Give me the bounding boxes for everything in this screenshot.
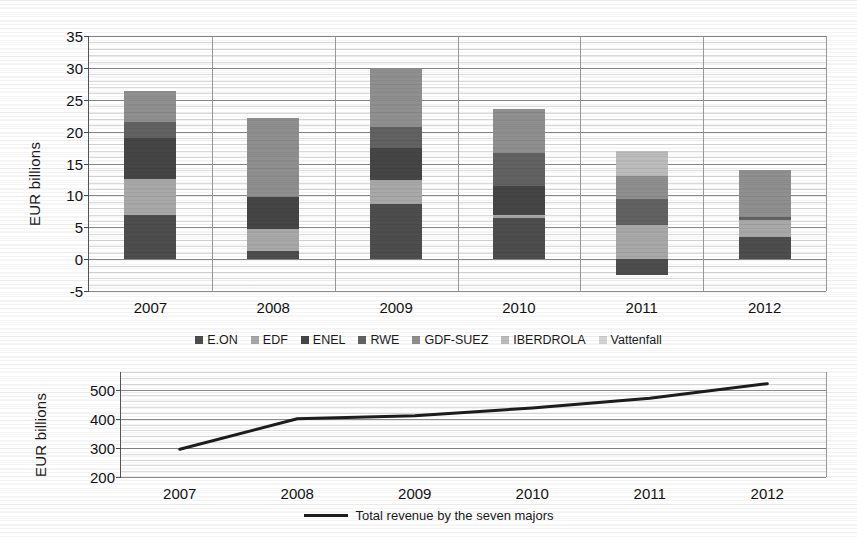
- legend-item: IBERDROLA: [501, 333, 585, 347]
- bar-segment: [247, 251, 299, 259]
- top-chart-legend: E.ONEDFENELRWEGDF-SUEZIBERDROLAVattenfal…: [0, 333, 857, 347]
- y-axis-tick-mark: [84, 227, 89, 228]
- bar-stack: [493, 36, 545, 291]
- line-series-key-icon: [304, 514, 348, 517]
- x-axis-tick-label: 2009: [379, 299, 412, 316]
- y-axis-tick-label: 5: [75, 219, 83, 236]
- y-axis-tick-label: 500: [90, 381, 115, 398]
- bottom-chart-legend-label: Total revenue by the seven majors: [356, 508, 554, 523]
- legend-item: ENEL: [301, 333, 346, 347]
- bar-segment: [124, 138, 176, 179]
- bar-stack: [739, 36, 791, 291]
- plot-bottom-border: [121, 477, 826, 478]
- y-axis-tick-label: 300: [90, 439, 115, 456]
- category-separator: [212, 36, 213, 291]
- category-separator: [580, 36, 581, 291]
- bar-segment: [493, 186, 545, 215]
- x-axis-tick-label: 2008: [281, 485, 314, 502]
- bar-segment: [370, 180, 422, 204]
- bar-segment: [739, 217, 791, 220]
- bar-stack: [247, 36, 299, 291]
- legend-item: GDF-SUEZ: [412, 333, 488, 347]
- bar-segment: [616, 176, 668, 198]
- bar-segment: [124, 215, 176, 260]
- gridline: [89, 291, 826, 292]
- x-axis-tick-label: 2011: [626, 299, 658, 316]
- legend-item: E.ON: [195, 333, 238, 347]
- legend-label: GDF-SUEZ: [424, 333, 488, 347]
- legend-item: EDF: [251, 333, 288, 347]
- x-axis-tick-label: 2012: [751, 485, 784, 502]
- x-axis-tick-label: 2012: [748, 299, 781, 316]
- legend-item: RWE: [358, 333, 399, 347]
- y-axis-tick-label: 400: [90, 410, 115, 427]
- category-separator: [335, 36, 336, 291]
- legend-swatch-icon: [358, 336, 366, 344]
- legend-swatch-icon: [501, 336, 509, 344]
- bar-segment: [370, 127, 422, 147]
- bar-segment: [370, 204, 422, 259]
- bottom-chart-legend: Total revenue by the seven majors: [0, 508, 857, 523]
- plot-right-border: [826, 36, 827, 291]
- y-axis-tick-mark: [84, 36, 89, 37]
- bar-stack: [616, 36, 668, 291]
- y-axis-tick-label: -5: [70, 283, 83, 300]
- bar-segment: [370, 68, 422, 127]
- legend-label: RWE: [370, 333, 399, 347]
- y-axis-tick-mark: [84, 195, 89, 196]
- bar-segment: [124, 91, 176, 122]
- bar-stack: [370, 36, 422, 291]
- revenue-line-path: [180, 384, 768, 450]
- y-axis-tick-label: 25: [66, 91, 83, 108]
- bar-stack: [124, 36, 176, 291]
- top-chart-y-axis-title: EUR billions: [26, 96, 43, 226]
- bar-segment: [247, 229, 299, 252]
- legend-swatch-icon: [599, 336, 607, 344]
- bar-segment: [493, 215, 545, 218]
- bar-segment: [247, 197, 299, 229]
- legend-label: Vattenfall: [611, 333, 662, 347]
- x-axis-tick-label: 2010: [516, 485, 549, 502]
- x-axis-tick-label: 2007: [134, 299, 167, 316]
- bar-segment: [124, 122, 176, 138]
- bar-segment: [739, 220, 791, 237]
- x-axis-tick-label: 2009: [398, 485, 431, 502]
- y-axis-tick-label: 20: [66, 123, 83, 140]
- y-axis-tick-mark: [84, 164, 89, 165]
- bottom-chart-plot-area: 500400300200 200720082009201020112012: [120, 372, 826, 477]
- y-axis-tick-label: 10: [66, 187, 83, 204]
- bar-segment: [124, 179, 176, 214]
- y-axis-tick-label: 35: [66, 28, 83, 45]
- y-axis-tick-label: 15: [66, 155, 83, 172]
- legend-swatch-icon: [195, 336, 203, 344]
- bar-segment: [493, 218, 545, 259]
- bar-segment: [616, 199, 668, 226]
- bar-segment: [493, 153, 545, 186]
- legend-item: Vattenfall: [599, 333, 662, 347]
- bar-segment: [739, 170, 791, 217]
- x-axis-tick-label: 2011: [634, 485, 666, 502]
- y-axis-tick-label: 0: [75, 251, 83, 268]
- x-axis-tick-label: 2010: [502, 299, 535, 316]
- category-separator: [458, 36, 459, 291]
- plot-right-border: [826, 372, 827, 477]
- x-axis-tick-label: 2007: [163, 485, 196, 502]
- line-chart: EUR billions 500400300200 20072008200920…: [0, 356, 857, 539]
- stacked-bar-chart: EUR billions 35302520151050-5 2007200820…: [0, 0, 857, 322]
- top-chart-plot-area: 35302520151050-5 20072008200920102011201…: [88, 36, 826, 291]
- bar-segment: [616, 259, 668, 275]
- legend-swatch-icon: [301, 336, 309, 344]
- legend-swatch-icon: [412, 336, 420, 344]
- y-axis-tick-mark: [84, 100, 89, 101]
- x-axis-tick-label: 2008: [257, 299, 290, 316]
- legend-label: E.ON: [207, 333, 238, 347]
- y-axis-tick-mark: [84, 132, 89, 133]
- bar-segment: [616, 151, 668, 177]
- legend-swatch-icon: [251, 336, 259, 344]
- legend-label: IBERDROLA: [513, 333, 585, 347]
- legend-label: EDF: [263, 333, 288, 347]
- bar-segment: [247, 118, 299, 196]
- y-axis-tick-label: 30: [66, 59, 83, 76]
- bar-segment: [739, 237, 791, 259]
- bar-segment: [370, 148, 422, 181]
